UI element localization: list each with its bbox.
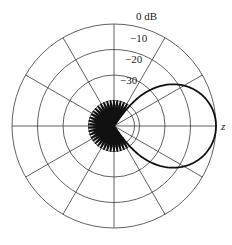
axis-label-z: z [220,120,226,132]
label-minus10: −10 [130,32,148,44]
polar-plot: 0 dB −10 −20 −30 z [0,0,232,245]
label-minus20: −20 [125,53,143,65]
label-0db: 0 dB [136,10,157,22]
label-minus30: −30 [120,74,138,86]
